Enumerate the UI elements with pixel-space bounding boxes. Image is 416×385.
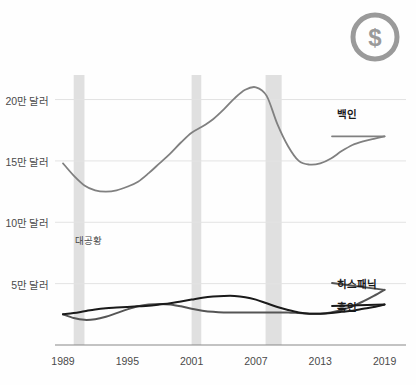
series-label-white: 백인: [337, 106, 357, 121]
y-tick-label-200k: 20만 달러: [0, 93, 49, 108]
y-tick-label-50k: 5만 달러: [0, 277, 49, 292]
x-tick-label-2007: 2007: [226, 355, 286, 367]
recession-band-2001: [192, 75, 202, 345]
y-tick-label-150k: 15만 달러: [0, 154, 49, 169]
x-tick-label-2019: 2019: [355, 355, 415, 367]
recession-annotation-label: 대공황: [75, 233, 102, 247]
recession-bands-group: [74, 75, 282, 345]
line-chart-plot: [0, 0, 416, 385]
series-label-black: 흑인: [337, 299, 357, 314]
chart-container: $ 20만 달러 15만 달러 10만 달러 5만 달러 1989 1995 2…: [0, 0, 416, 385]
y-tick-label-100k: 10만 달러: [0, 215, 49, 230]
recession-band-1990: [74, 75, 85, 345]
series-line-백인: [63, 87, 385, 192]
x-tick-label-2013: 2013: [290, 355, 350, 367]
x-tick-label-2001: 2001: [162, 355, 222, 367]
x-tick-label-1989: 1989: [33, 355, 93, 367]
series-label-hispanic: 히스패닉: [337, 276, 377, 291]
x-tick-label-1995: 1995: [97, 355, 157, 367]
